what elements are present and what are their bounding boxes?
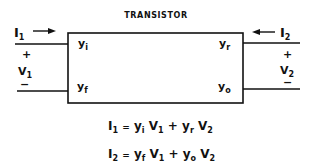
svg-text:yf: yf — [77, 80, 88, 95]
input-current-arrow-icon — [33, 28, 56, 34]
output-plus-sign: + — [283, 48, 292, 61]
svg-text:yo: yo — [218, 80, 231, 95]
input-current-label: I1 — [14, 25, 25, 42]
param-yi: yi — [78, 37, 88, 52]
svg-text:yi: yi — [78, 37, 88, 52]
param-yf: yf — [77, 80, 88, 95]
param-yr: yr — [219, 37, 230, 52]
output-minus-sign: − — [283, 76, 292, 89]
equation-1: I1 = yi V1 + yr V2 — [108, 119, 213, 136]
input-minus-sign: − — [20, 78, 29, 91]
transistor-two-port-diagram: TRANSISTOR I1 + V1 − I2 + V2 − yi yf yr — [0, 0, 309, 167]
diagram-title: TRANSISTOR — [124, 11, 187, 20]
input-plus-sign: + — [22, 48, 31, 61]
svg-text:I2: I2 — [280, 25, 290, 42]
svg-text:yr: yr — [219, 37, 230, 52]
output-current-arrow-icon — [252, 29, 275, 35]
equation-2: I2 = yf V1 + yo V2 — [108, 147, 215, 164]
transistor-box — [68, 33, 243, 103]
svg-text:I1 = yi V1: I1 = yi V1 + yr V2 — [108, 119, 213, 136]
svg-text:I2 = yf V1: I2 = yf V1 + yo V2 — [108, 147, 215, 164]
param-yo: yo — [218, 80, 231, 95]
output-current-label: I2 — [280, 25, 290, 42]
svg-text:I1: I1 — [14, 25, 25, 42]
